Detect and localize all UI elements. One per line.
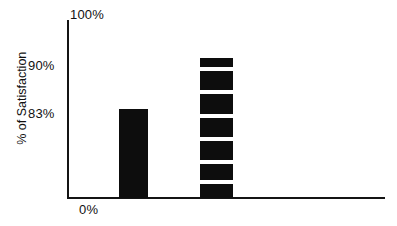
y-axis-title: % of Satisfaction (16, 38, 29, 158)
bar-segment (200, 58, 233, 67)
y-tick-label-83: 83% (28, 107, 55, 120)
y-tick-label-90: 90% (28, 59, 55, 72)
satisfaction-bar-chart: % of Satisfaction 100% 90% 83% 0% (0, 0, 397, 226)
bar-segment (200, 184, 233, 198)
y-axis-line (67, 20, 69, 199)
bar-segment (200, 164, 233, 180)
bar-segment (200, 141, 233, 160)
bar-segment (200, 94, 233, 114)
bar-segmented-90 (200, 58, 233, 198)
bar-segment (200, 118, 233, 137)
y-tick-label-0: 0% (79, 203, 98, 216)
bar-solid-83 (119, 109, 148, 198)
y-tick-label-100: 100% (70, 8, 104, 21)
bar-segment (200, 71, 233, 90)
